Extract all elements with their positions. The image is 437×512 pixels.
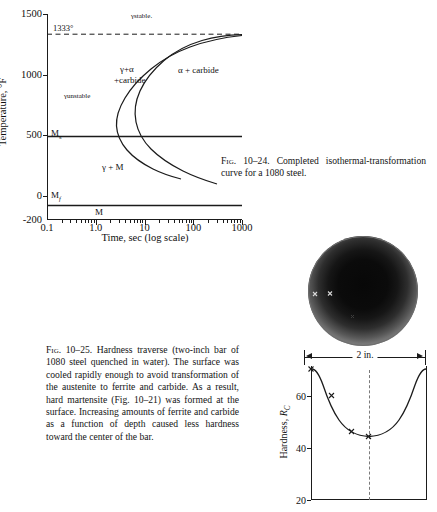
ttt-curves: [47, 14, 242, 220]
ttt-xlabel-1: 1.0: [89, 223, 102, 234]
caption-1024-number: Fig. 10–24.: [221, 155, 270, 166]
a1-temperature-label: 1333°: [53, 23, 73, 33]
ttt-x-axis-title: Time, sec (log scale): [101, 232, 188, 243]
gamma-alpha-carbide-label-line2: +carbide: [114, 75, 146, 86]
ttt-ylabel-500: 500: [26, 130, 42, 141]
caption-fig-10-25: Fig. 10–25. Hardness traverse (two-inch …: [46, 344, 239, 443]
dimension-extension-left: [304, 350, 305, 365]
ttt-xlabel-1000: 1000: [232, 223, 253, 234]
ttt-plot-area: 1500 1000 500 0 -200: [47, 14, 242, 220]
caption-fig-10-24: Fig. 10–24. Completed isothermal-transfo…: [221, 155, 426, 180]
ttt-xlabel-10: 10: [139, 223, 150, 234]
hardness-plot-area: 60 40 20: [311, 370, 427, 500]
dimension-extension-right: [425, 350, 426, 365]
hardness-ylabel-20: 20: [296, 495, 306, 506]
bar-diameter-dimension: 2 in.: [304, 349, 426, 365]
photo-indent-marks: [308, 236, 418, 346]
gamma-alpha-carbide-label-line1: γ+α: [120, 64, 134, 75]
hardness-curve: [312, 369, 426, 437]
hardness-y-axis-title: Hardness, RC: [278, 405, 292, 458]
martensite-label: M: [95, 207, 103, 218]
gamma-unstable-label: γunstable: [64, 91, 90, 102]
dimension-label: 2 in.: [352, 349, 377, 360]
ttt-xlabel-100: 100: [185, 223, 201, 234]
caption-1025-text: Hardness traverse (two-inch bar of 1080 …: [46, 344, 239, 442]
hardness-traverse-figure: Hardness, RC 60 40 20: [278, 366, 437, 512]
ttt-ylabel-1500: 1500: [21, 9, 42, 20]
dimension-arrow-right: [417, 353, 423, 359]
isothermal-transformation-figure: Temperature, °F Time, sec (log scale) 15…: [0, 0, 270, 250]
bar-cross-section-photo: [308, 236, 418, 346]
ttt-ylabel-minus200: -200: [23, 215, 42, 226]
hardness-y-title-symbol: R: [278, 410, 289, 416]
hardness-ylabel-40: 40: [296, 443, 306, 454]
gamma-stable-label: γstable.: [131, 11, 152, 22]
hardness-ytick-20: [307, 500, 311, 501]
gamma-plus-m-label: γ + M: [102, 162, 124, 173]
ms-axis-label: Ms: [51, 128, 62, 142]
mf-axis-label: Mf: [51, 190, 61, 204]
ttt-y-axis-title: Temperature, °F: [0, 78, 8, 146]
ttt-xlabel-0.1: 0.1: [40, 223, 53, 234]
caption-1025-number: Fig. 10–25.: [46, 344, 92, 355]
hardness-curve-group: [311, 366, 427, 500]
ttt-ylabel-1000: 1000: [21, 69, 42, 80]
alpha-carbide-label: α + carbide: [178, 65, 219, 76]
hardness-measured-points: [309, 367, 372, 440]
ttt-ylabel-0: 0: [37, 191, 42, 202]
hardness-y-title-subscript: C: [284, 405, 292, 410]
dimension-arrow-left: [306, 353, 312, 359]
textbook-page: Temperature, °F Time, sec (log scale) 15…: [0, 0, 437, 512]
hardness-ylabel-60: 60: [296, 391, 306, 402]
hardness-y-title-main: Hardness,: [278, 416, 289, 458]
